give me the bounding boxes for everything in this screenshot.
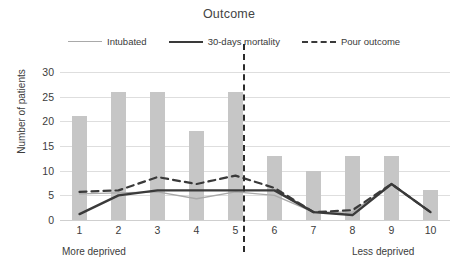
x-tick-label: 5	[223, 224, 249, 236]
line-series-30-days-mortality	[80, 184, 431, 215]
more-deprived-label: More deprived	[62, 246, 126, 257]
x-tick-label: 2	[106, 224, 132, 236]
x-tick-label: 6	[262, 224, 288, 236]
y-axis-tick-labels: 051015202530	[26, 72, 54, 220]
legend-item-intubated[interactable]: Intubated	[68, 36, 147, 47]
legend-line-icon-intubated	[68, 41, 102, 42]
legend-line-icon-pour-outcome	[302, 41, 336, 43]
legend-line-icon-30-days-mortality	[169, 41, 203, 43]
x-tick-label: 3	[145, 224, 171, 236]
x-tick-label: 4	[184, 224, 210, 236]
legend-label-pour-outcome: Pour outcome	[341, 36, 400, 47]
line-series-intubated	[80, 184, 431, 212]
y-tick-label: 30	[42, 66, 54, 78]
x-tick-label: 1	[67, 224, 93, 236]
x-tick-label: 9	[379, 224, 405, 236]
chart-title: Outcome	[0, 7, 458, 21]
outcome-chart: Outcome Intubated 30-days mortality Pour…	[0, 0, 458, 269]
x-tick-label: 10	[418, 224, 444, 236]
legend-item-pour-outcome[interactable]: Pour outcome	[302, 36, 400, 47]
chart-legend: Intubated 30-days mortality Pour outcome	[68, 36, 448, 47]
x-axis-tick-labels: 12345678910	[60, 224, 450, 240]
y-tick-label: 5	[48, 189, 54, 201]
line-series-overlay	[60, 72, 450, 220]
legend-label-intubated: Intubated	[107, 36, 147, 47]
legend-item-30-days-mortality[interactable]: 30-days mortality	[169, 36, 280, 47]
x-tick-label: 7	[301, 224, 327, 236]
y-axis-title: Number of patients	[16, 47, 27, 177]
y-tick-label: 10	[42, 165, 54, 177]
less-deprived-label: Less deprived	[352, 246, 414, 257]
x-tick-label: 8	[340, 224, 366, 236]
x-axis-line	[60, 220, 450, 221]
y-tick-label: 25	[42, 91, 54, 103]
y-tick-label: 15	[42, 140, 54, 152]
y-tick-label: 0	[48, 214, 54, 226]
y-tick-label: 20	[42, 115, 54, 127]
deprivation-divider	[243, 44, 245, 252]
